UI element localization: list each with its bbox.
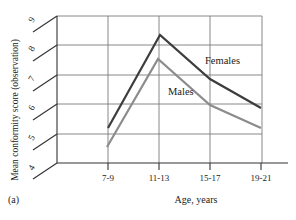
females-label: Females	[205, 55, 240, 66]
x-axis-title: Age, years	[175, 194, 218, 205]
svg-text:11-13: 11-13	[149, 173, 170, 183]
y-ticks	[33, 16, 57, 179]
svg-text:5: 5	[26, 133, 37, 142]
y-axis-title: Mean conformity score (observation)	[10, 39, 21, 181]
svg-text:8: 8	[26, 44, 37, 53]
svg-text:7-9: 7-9	[102, 173, 114, 183]
x-ticks	[108, 163, 261, 170]
svg-text:9: 9	[26, 15, 37, 24]
svg-text:6: 6	[26, 103, 37, 112]
svg-text:19-21: 19-21	[251, 173, 272, 183]
svg-text:4: 4	[26, 163, 37, 172]
svg-text:15-17: 15-17	[200, 173, 221, 183]
males-label: Males	[168, 86, 194, 97]
svg-text:7: 7	[26, 74, 37, 83]
line-chart: 9 8 7 6 5 4 7-9 11-13 15-17 19-21 Female…	[0, 0, 296, 220]
x-tick-labels: 7-9 11-13 15-17 19-21	[102, 173, 272, 183]
panel-label: (a)	[8, 194, 19, 206]
